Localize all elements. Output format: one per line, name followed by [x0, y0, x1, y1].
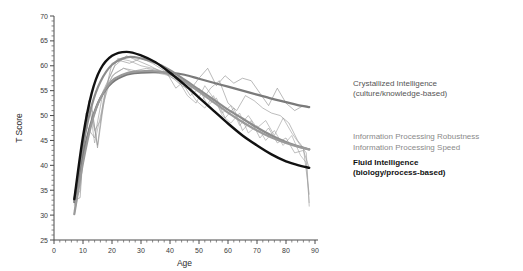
annotation-crystallized: Crystallized Intelligence — [353, 79, 438, 88]
y-tick-label: 70 — [40, 13, 48, 20]
x-tick-label: 0 — [52, 247, 56, 254]
y-axis-title: T Score — [14, 113, 24, 143]
x-tick-label: 10 — [79, 247, 87, 254]
y-tick-label: 55 — [40, 87, 48, 94]
annotation-crystallized: (culture/knowledge-based) — [353, 89, 448, 98]
x-tick-label: 60 — [224, 247, 232, 254]
x-tick-label: 40 — [166, 247, 174, 254]
x-axis-title: Age — [177, 258, 192, 268]
x-tick-label: 30 — [137, 247, 145, 254]
y-tick-label: 40 — [40, 162, 48, 169]
annotation-ip-robustness: Information Processing Robustness — [353, 132, 479, 141]
y-tick-label: 45 — [40, 137, 48, 144]
annotation-fluid: (biology/process-based) — [353, 168, 446, 177]
x-tick-label: 90 — [311, 247, 319, 254]
annotation-ip-speed: Information Processing Speed — [353, 143, 460, 152]
y-tick-label: 50 — [40, 112, 48, 119]
x-tick-label: 20 — [108, 247, 116, 254]
x-tick-label: 50 — [195, 247, 203, 254]
y-tick-label: 25 — [40, 237, 48, 244]
annotation-fluid: Fluid Intelligence — [353, 158, 419, 167]
intelligence-age-line-chart: 253035404550556065700102030405060708090A… — [0, 0, 523, 271]
y-tick-label: 30 — [40, 212, 48, 219]
x-tick-label: 80 — [282, 247, 290, 254]
x-tick-label: 70 — [253, 247, 261, 254]
y-tick-label: 60 — [40, 62, 48, 69]
y-tick-label: 35 — [40, 187, 48, 194]
chart-container: 253035404550556065700102030405060708090A… — [0, 0, 523, 271]
y-tick-label: 65 — [40, 37, 48, 44]
